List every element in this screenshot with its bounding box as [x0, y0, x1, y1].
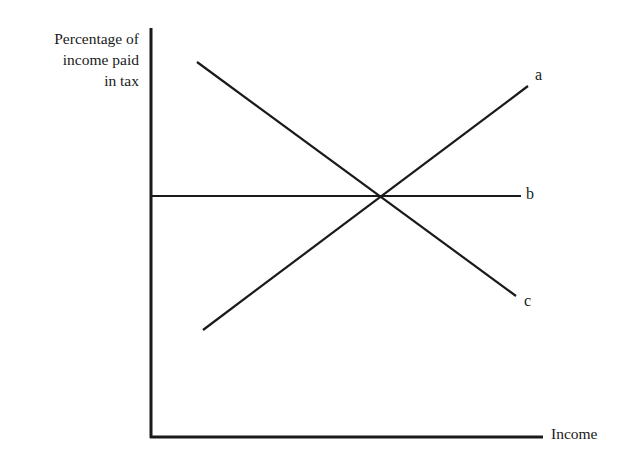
line-c-label: c	[524, 292, 531, 310]
y-axis-label: Percentage of income paid in tax	[0, 28, 139, 91]
y-axis-label-line-2: income paid	[0, 49, 139, 70]
line-a	[203, 86, 528, 330]
tax-diagram: Percentage of income paid in tax Income …	[0, 0, 634, 458]
line-c	[197, 62, 516, 296]
y-axis-label-line-3: in tax	[0, 70, 139, 91]
y-axis-label-line-1: Percentage of	[0, 28, 139, 49]
x-axis-label: Income	[551, 425, 597, 443]
line-a-label: a	[535, 66, 542, 84]
line-b-label: b	[526, 185, 534, 203]
